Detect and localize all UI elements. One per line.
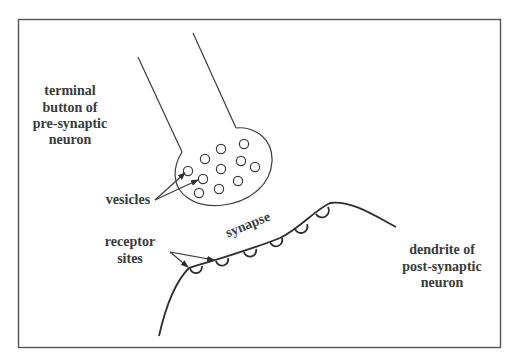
svg-text:sites: sites	[117, 251, 143, 266]
receptor-arrows	[170, 252, 214, 267]
vesicle	[216, 164, 225, 173]
vesicle	[216, 144, 225, 153]
vesicle	[239, 139, 248, 148]
svg-text:receptor: receptor	[105, 234, 155, 249]
diagram-border	[19, 20, 501, 348]
svg-text:terminal: terminal	[44, 83, 95, 98]
svg-text:button of: button of	[43, 100, 98, 115]
vesicle	[214, 184, 223, 193]
vesicle	[200, 154, 209, 163]
vesicle	[194, 188, 203, 197]
terminal-button-shape	[138, 33, 272, 206]
vesicle	[233, 176, 242, 185]
label-terminal-button: terminal button of pre-synaptic neuron	[33, 83, 107, 147]
synapse-diagram: terminal button of pre-synaptic neuron v…	[0, 0, 515, 364]
svg-text:dendrite of: dendrite of	[409, 242, 475, 257]
label-receptor-sites: receptor sites	[105, 234, 155, 266]
vesicle	[236, 156, 245, 165]
label-vesicles: vesicles	[106, 192, 151, 207]
svg-text:pre-synaptic: pre-synaptic	[33, 116, 107, 131]
vesicle	[183, 166, 192, 175]
label-synapse: synapse	[223, 209, 272, 240]
vesicle	[250, 162, 259, 171]
svg-text:post-synaptic: post-synaptic	[402, 259, 481, 274]
label-dendrite: dendrite of post-synaptic neuron	[402, 242, 481, 290]
vesicle-arrows	[155, 173, 198, 200]
vesicle	[198, 174, 207, 183]
svg-text:neuron: neuron	[421, 275, 464, 290]
vesicles-group	[183, 139, 259, 197]
svg-text:neuron: neuron	[49, 132, 92, 147]
dendrite-membrane	[159, 203, 396, 336]
